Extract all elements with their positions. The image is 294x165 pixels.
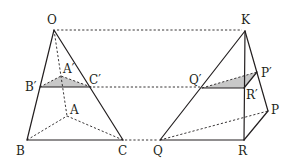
label-P-prime: P′ [261, 67, 272, 79]
diagram-canvas: O B C A B′ C′ A′ K Q R P Q′ R′ P′ [0, 0, 294, 165]
label-B-prime: B′ [25, 81, 37, 93]
label-R: R [238, 145, 247, 157]
label-C: C [118, 145, 127, 157]
label-A: A [70, 104, 79, 116]
edge-QP [160, 111, 268, 140]
label-R-prime: R′ [246, 89, 258, 101]
edge-CA [67, 116, 123, 140]
label-Q: Q [153, 145, 163, 157]
edge-RP [244, 111, 268, 140]
label-B: B [16, 145, 25, 157]
label-C-prime: C′ [89, 74, 101, 86]
edge-BA [27, 116, 67, 140]
label-Q-prime: Q′ [189, 74, 202, 86]
edge-KR [244, 31, 245, 140]
label-A-prime: A′ [63, 63, 74, 75]
label-K: K [241, 14, 250, 26]
label-P: P [271, 104, 279, 116]
label-O: O [47, 14, 57, 26]
